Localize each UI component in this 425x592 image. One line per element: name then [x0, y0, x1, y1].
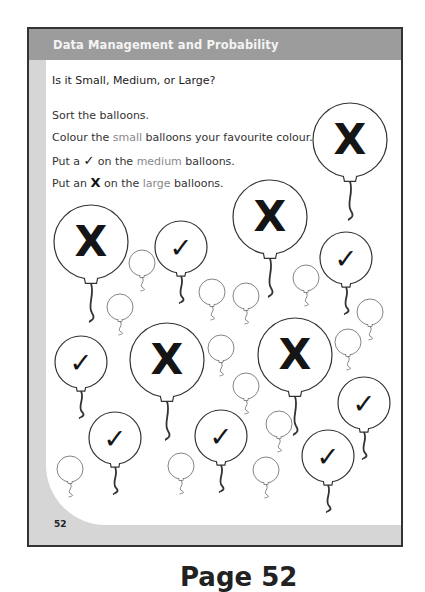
small-balloon — [293, 265, 319, 306]
small-balloon — [129, 250, 155, 291]
large-balloon: X — [313, 103, 387, 220]
small-balloon — [168, 453, 194, 494]
medium-balloon: ✓ — [55, 336, 107, 418]
check-icon: ✓ — [353, 388, 376, 419]
x-mark-icon: X — [254, 192, 287, 241]
x-mark-icon: X — [75, 217, 108, 266]
check-icon: ✓ — [210, 421, 233, 452]
check-icon: ✓ — [170, 232, 193, 263]
small-balloon — [335, 329, 361, 370]
check-icon: ✓ — [317, 441, 340, 472]
small-balloon — [233, 283, 259, 324]
small-balloon — [107, 294, 133, 335]
check-icon: ✓ — [104, 423, 127, 454]
small-balloon — [357, 299, 383, 340]
large-balloon: X — [130, 323, 204, 440]
small-balloon — [57, 456, 83, 497]
small-balloon — [208, 335, 234, 376]
medium-balloon: ✓ — [89, 412, 141, 494]
small-balloon — [233, 373, 259, 414]
page-caption: Page 52 — [180, 562, 297, 592]
medium-balloon: ✓ — [195, 410, 247, 492]
x-mark-icon: X — [279, 330, 312, 379]
x-mark-icon: X — [334, 115, 367, 164]
check-icon: ✓ — [335, 243, 358, 274]
small-balloon — [199, 279, 225, 320]
small-balloon — [253, 457, 279, 498]
small-balloon — [266, 411, 292, 452]
check-icon: ✓ — [70, 347, 93, 378]
x-mark-icon: X — [151, 335, 184, 384]
medium-balloon: ✓ — [302, 430, 354, 512]
